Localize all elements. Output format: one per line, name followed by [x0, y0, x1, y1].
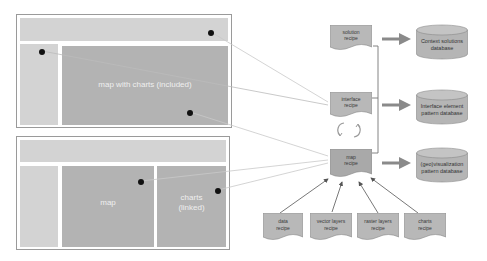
charts-recipe: charts recipe: [404, 213, 446, 241]
marker-dot: [187, 110, 193, 116]
context-solutions-database: Context solutions database: [416, 24, 468, 60]
marker-dot: [208, 30, 214, 36]
marker-dot: [215, 188, 221, 194]
cycle-arrows-icon: [338, 123, 360, 137]
marker-dot: [39, 49, 45, 55]
geovisualization-database: (geo)visualization pattern database: [416, 147, 468, 183]
interface-recipe: interface recipe: [330, 92, 372, 118]
solution-recipe: solution recipe: [330, 25, 372, 51]
data-recipe: data recipe: [263, 213, 303, 241]
marker-dot: [138, 179, 144, 185]
raster-layers-recipe: raster layers recipe: [357, 213, 399, 241]
map-recipe: map recipe: [330, 149, 372, 179]
vector-layers-recipe: vector layers recipe: [310, 213, 352, 241]
interface-element-database: Interface element pattern database: [416, 89, 468, 125]
